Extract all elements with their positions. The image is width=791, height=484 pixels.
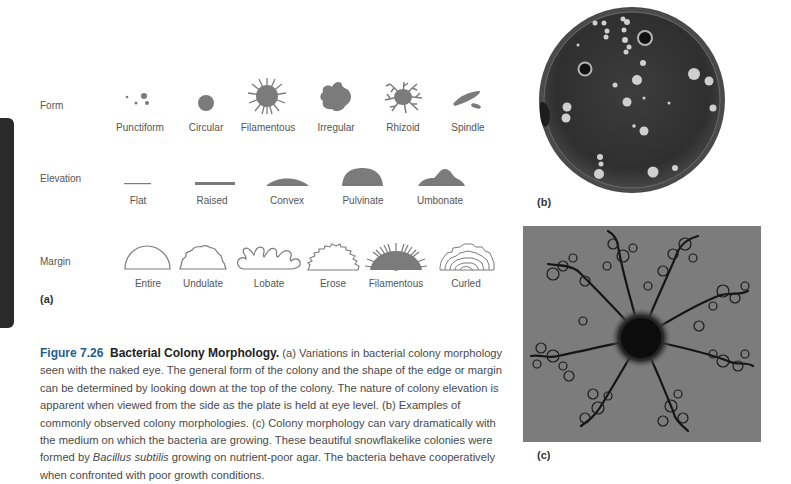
erose-margin-icon xyxy=(306,243,362,271)
row-label-form: Form xyxy=(40,100,63,111)
elevation-label-raised: Raised xyxy=(172,195,252,206)
umbonate-elevation-icon xyxy=(418,168,466,187)
bacillus-colony-photo xyxy=(523,226,761,442)
filamentous-margin-icon xyxy=(364,242,428,272)
lobate-margin-icon xyxy=(236,243,302,271)
panel-c-tag: (c) xyxy=(537,449,550,461)
elevation-label-pulvinate: Pulvinate xyxy=(323,195,403,206)
margin-label-curled: Curled xyxy=(426,278,506,289)
undulate-margin-icon xyxy=(178,244,228,270)
petri-dish-photo xyxy=(537,0,727,195)
convex-elevation-icon xyxy=(266,175,310,187)
raised-elevation-icon xyxy=(195,181,237,186)
elevation-label-flat: Flat xyxy=(98,195,178,206)
pulvinate-elevation-icon xyxy=(342,167,384,187)
figure-caption: Figure 7.26 Bacterial Colony Morphology.… xyxy=(40,345,505,484)
figure-title: Figure 7.26 Bacterial Colony Morphology. xyxy=(40,346,279,360)
punctiform-shape-icon xyxy=(120,92,160,114)
flat-elevation-icon xyxy=(124,182,152,186)
panel-b-tag: (b) xyxy=(537,196,551,208)
caption-body-1: (a) Variations in bacterial colony morph… xyxy=(40,347,502,463)
figure-number: Figure 7.26 xyxy=(40,346,103,360)
caption-species-name: Bacillus subtilis xyxy=(93,451,169,463)
filamentous-form-shape-icon xyxy=(245,76,289,116)
spindle-shape-icon xyxy=(451,89,483,113)
chapter-side-tab xyxy=(0,118,14,328)
row-label-margin: Margin xyxy=(40,256,71,267)
irregular-shape-icon xyxy=(317,80,355,114)
panel-a-tag: (a) xyxy=(40,293,53,305)
margin-label-filamentous: Filamentous xyxy=(356,278,436,289)
form-label-spindle: Spindle xyxy=(428,122,508,133)
figure-title-text: Bacterial Colony Morphology. xyxy=(110,346,279,360)
rhizoid-shape-icon xyxy=(382,80,424,114)
curled-margin-icon xyxy=(438,243,496,271)
elevation-label-umbonate: Umbonate xyxy=(400,195,480,206)
entire-margin-icon xyxy=(124,245,172,270)
row-label-elevation: Elevation xyxy=(40,173,81,184)
elevation-label-convex: Convex xyxy=(247,195,327,206)
circular-shape-icon xyxy=(196,93,216,113)
